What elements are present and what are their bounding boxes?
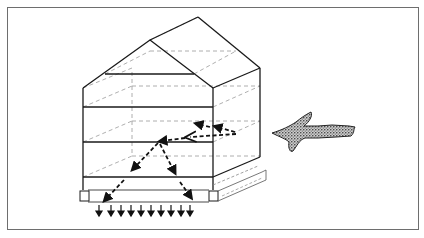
drip-arrow-icon: [128, 205, 134, 216]
hidden-edges: [83, 17, 260, 177]
hive-diagram: [0, 0, 424, 238]
flow-arrows: [106, 124, 236, 199]
ridge: [150, 17, 198, 40]
drip-arrow-icon: [178, 205, 184, 216]
right-bottom-edge: [213, 157, 260, 177]
incoming-branch-arrow-icon: [272, 112, 355, 151]
drip-arrow-icon: [158, 205, 164, 216]
right-eave: [213, 68, 260, 88]
left-post: [80, 191, 89, 201]
drip-arrow-icon: [168, 205, 174, 216]
drip-arrow-icon: [118, 205, 124, 216]
drip-arrow-icon: [108, 205, 114, 216]
drip-arrow-icon: [138, 205, 144, 216]
hive-structure: [83, 17, 260, 190]
drip-arrow-icon: [187, 205, 193, 216]
right-post: [209, 191, 218, 201]
drip-arrow-icon: [96, 205, 102, 216]
side-tray: [213, 166, 266, 201]
back-roof-edge: [198, 17, 260, 68]
drip-arrows: [96, 205, 193, 216]
front-gable: [83, 40, 213, 88]
drip-arrow-icon: [148, 205, 154, 216]
